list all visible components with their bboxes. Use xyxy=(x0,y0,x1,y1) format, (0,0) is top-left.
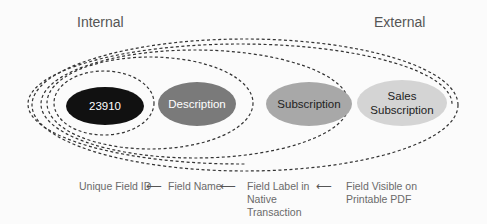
caption-line: Transaction xyxy=(247,206,309,219)
caption-native-label: Field Label in Native Transaction xyxy=(247,180,309,219)
caption-line: Field Visible on xyxy=(346,180,417,193)
internal-label: Internal xyxy=(77,14,124,30)
field-scope-diagram: Internal External 23910 Description Subs… xyxy=(0,0,487,224)
arrow-left-icon: ⟵ xyxy=(316,180,332,193)
node-native-label: Subscription xyxy=(266,82,352,126)
node-unique-field-id: 23910 xyxy=(66,87,144,125)
arrow-left-icon: ⟵ xyxy=(146,180,162,193)
node-field-name: Description xyxy=(158,82,236,126)
node-label: Subscription xyxy=(277,97,340,111)
external-label: External xyxy=(374,14,425,30)
caption-line: Field Label in xyxy=(247,180,309,193)
arrow-left-icon: ⟵ xyxy=(220,180,236,193)
caption-field-name: Field Name xyxy=(168,180,222,193)
caption-line: Printable PDF xyxy=(346,193,417,206)
node-label-line1: Sales xyxy=(388,89,417,103)
caption-printable-pdf: Field Visible on Printable PDF xyxy=(346,180,417,206)
caption-unique-field-id: Unique Field ID xyxy=(79,180,151,193)
node-label: 23910 xyxy=(89,99,121,113)
node-label-line2: Subscription xyxy=(370,103,433,117)
node-printable-pdf: Sales Subscription xyxy=(357,80,447,126)
caption-line: Native xyxy=(247,193,309,206)
node-label: Description xyxy=(168,97,226,111)
